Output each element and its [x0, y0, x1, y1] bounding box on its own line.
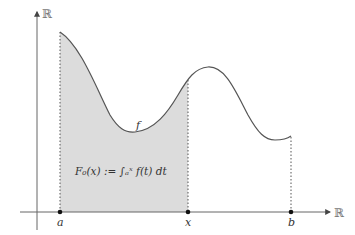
label-b: b [288, 216, 295, 229]
x-axis-label: ℝ [334, 206, 345, 220]
y-axis-label: ℝ [42, 7, 53, 21]
point-a-dot [58, 210, 63, 215]
integral-diagram: ℝ ℝ a x b f F₀(x) := ∫ₐˣ f(t) dt [0, 0, 355, 235]
label-x: x [185, 216, 192, 229]
point-b-dot [289, 210, 294, 215]
label-a: a [57, 216, 64, 229]
point-x-dot [186, 210, 191, 215]
integral-formula: F₀(x) := ∫ₐˣ f(t) dt [74, 165, 167, 177]
shaded-area [60, 32, 188, 212]
function-label: f [135, 119, 142, 132]
